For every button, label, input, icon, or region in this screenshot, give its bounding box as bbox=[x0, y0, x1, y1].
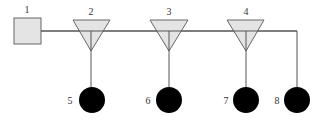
terminal-node-8-label: 8 bbox=[275, 95, 280, 106]
terminal-node-6-circle bbox=[156, 87, 182, 113]
source-node-square bbox=[14, 18, 41, 44]
splitter-node-4-label: 4 bbox=[244, 6, 249, 17]
network-diagram: 1 2 3 4 5 6 7 8 bbox=[0, 0, 323, 122]
terminal-node-6-label: 6 bbox=[146, 95, 151, 106]
terminal-node-5-circle bbox=[79, 87, 105, 113]
terminal-node-7-label: 7 bbox=[224, 95, 229, 106]
splitter-node-3-label: 3 bbox=[167, 6, 172, 17]
splitter-node-2-label: 2 bbox=[89, 6, 94, 17]
terminal-node-7-circle bbox=[233, 87, 259, 113]
terminal-node-5-label: 5 bbox=[68, 95, 73, 106]
source-node-label: 1 bbox=[25, 4, 30, 15]
terminal-node-8-circle bbox=[284, 87, 310, 113]
